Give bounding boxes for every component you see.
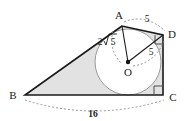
vertex-label-d: D <box>168 28 176 40</box>
center-point-o <box>126 60 130 64</box>
figure-canvas: A B C D O 5 2 5 5 16 <box>0 0 193 121</box>
measure-label-od: 5 <box>149 47 154 57</box>
measure-label-ao-radicand: 5 <box>111 37 116 47</box>
vertex-label-o: O <box>124 66 132 78</box>
measure-label-bc: 16 <box>88 109 98 119</box>
measure-label-ao-coefficient: 2 <box>98 37 103 47</box>
geometry-figure: A B C D O 5 2 5 5 16 <box>0 0 193 121</box>
vertex-label-c: C <box>169 91 176 103</box>
vertex-label-b: B <box>9 89 16 101</box>
vertex-label-a: A <box>115 9 123 21</box>
measure-label-ad: 5 <box>145 14 150 24</box>
